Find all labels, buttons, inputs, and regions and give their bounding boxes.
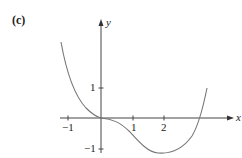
x-axis-arrow-icon <box>227 116 234 121</box>
panel-label: (c) <box>12 13 25 28</box>
x-tick-label-neg1: −1 <box>62 121 74 133</box>
x-tick-label-1: 1 <box>131 121 137 133</box>
x-tick-label-2: 2 <box>161 121 167 133</box>
y-tick-label-1: 1 <box>90 81 96 93</box>
y-axis-arrow-icon <box>99 19 104 26</box>
function-curve <box>61 42 207 153</box>
y-tick-label-neg1: −1 <box>84 142 96 154</box>
y-axis-label: y <box>106 16 111 28</box>
function-plot <box>0 0 242 158</box>
x-axis-label: x <box>236 111 241 123</box>
